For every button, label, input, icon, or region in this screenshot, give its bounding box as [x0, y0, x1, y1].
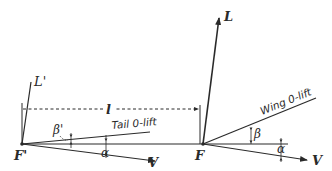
tail-point-label: F': [13, 148, 27, 163]
wing-velocity-label: V: [312, 153, 324, 168]
tail-velocity-vector: [22, 144, 155, 161]
wing-lift-vector: [203, 18, 219, 144]
tail-velocity-label: V: [148, 155, 160, 170]
wing-velocity-vector: [203, 144, 307, 160]
tail-lift-label: L': [33, 74, 46, 89]
force-diagram: L' L l Tail 0-lift V β' α Wing 0-lift β …: [0, 0, 332, 171]
tail-alpha-label: α: [101, 146, 109, 160]
wing-zero-lift-label: Wing 0-lift: [258, 85, 313, 117]
tail-zero-lift-line: [22, 132, 150, 144]
tail-zero-lift-label: Tail 0-lift: [111, 115, 158, 131]
distance-arrow-head: [194, 107, 199, 111]
wing-beta-label: β: [253, 127, 261, 141]
wing-point-label: F: [194, 148, 205, 163]
wing-lift-label: L: [223, 9, 233, 24]
wing-point-dot: [201, 142, 205, 146]
tail-beta-label: β': [52, 123, 63, 137]
tail-lift-vector: [22, 82, 31, 144]
tail-point-dot: [20, 142, 24, 146]
distance-label: l: [106, 102, 111, 117]
wing-alpha-label: α: [277, 142, 285, 156]
